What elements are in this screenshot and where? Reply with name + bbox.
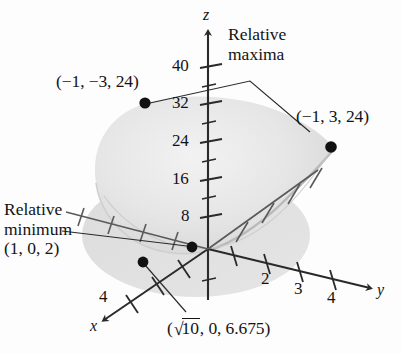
point-saddle bbox=[138, 257, 149, 268]
z-tick-16: 16 bbox=[172, 170, 189, 188]
relative-minimum-line-2: minimum bbox=[4, 220, 72, 240]
z-tick-32: 32 bbox=[172, 94, 189, 112]
surface-plot-figure: z y x 40 32 24 16 8 2 3 4 4 Relative max… bbox=[0, 0, 401, 354]
relative-minimum-coords: (1, 0, 2) bbox=[4, 239, 72, 259]
saddle-point-label: (√10, 0, 6.675) bbox=[167, 318, 270, 338]
max-left-point-label: (−1, −3, 24) bbox=[56, 72, 139, 91]
z-tick-24: 24 bbox=[172, 132, 189, 150]
saddle-rest: , 0, 6.675) bbox=[200, 318, 270, 338]
z-tick-8: 8 bbox=[181, 207, 189, 225]
relative-minimum-line-1: Relative bbox=[4, 200, 72, 220]
max-right-point-label: (−1, 3, 24) bbox=[296, 107, 369, 126]
z-tick-40: 40 bbox=[172, 57, 189, 75]
y-tick-3: 3 bbox=[294, 280, 302, 298]
x-tick-4: 4 bbox=[99, 288, 107, 306]
relative-maxima-line-2: maxima bbox=[228, 45, 286, 65]
relative-maxima-callout: Relative maxima bbox=[228, 25, 286, 64]
plot-canvas bbox=[0, 0, 401, 354]
axis-label-z: z bbox=[203, 6, 209, 23]
relative-minimum-callout: Relative minimum (1, 0, 2) bbox=[4, 200, 72, 259]
sqrt-icon: √10 bbox=[173, 318, 200, 338]
y-tick-2: 2 bbox=[261, 270, 269, 288]
radicand: 10 bbox=[182, 318, 200, 338]
y-tick-4: 4 bbox=[327, 289, 335, 307]
point-max-left bbox=[139, 97, 150, 108]
relative-maxima-line-1: Relative bbox=[228, 25, 286, 45]
point-minimum bbox=[187, 242, 198, 253]
axis-label-x: x bbox=[90, 317, 97, 334]
axis-label-y: y bbox=[377, 281, 384, 298]
point-max-right bbox=[325, 141, 337, 153]
